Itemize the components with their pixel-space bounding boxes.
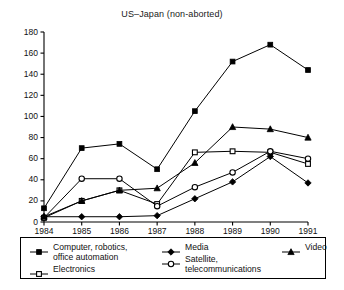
- data-point-marker: [42, 206, 47, 211]
- legend-marker: [161, 255, 181, 265]
- x-tick-label: 1988: [175, 227, 215, 236]
- y-tick-label: 0: [12, 218, 38, 226]
- x-tick-label: 1989: [213, 227, 253, 236]
- series-line: [44, 157, 308, 217]
- data-point-marker: [229, 179, 235, 185]
- y-tick-label: 80: [12, 133, 38, 141]
- data-point-marker: [230, 170, 235, 175]
- series-line: [44, 151, 308, 218]
- y-tick-label: 20: [12, 196, 38, 204]
- y-tick-label: 40: [12, 175, 38, 183]
- data-point-marker: [154, 203, 159, 208]
- data-point-marker: [230, 149, 235, 154]
- data-point-marker: [268, 42, 273, 47]
- legend-label: Media: [185, 242, 277, 252]
- series-line: [44, 151, 308, 218]
- data-point-marker: [305, 180, 311, 186]
- legend-item[interactable]: Electronics: [29, 264, 157, 275]
- legend-column-3: Video: [281, 242, 341, 254]
- data-point-marker: [192, 150, 197, 155]
- x-tick-label: 1987: [137, 227, 177, 236]
- data-point-marker: [155, 167, 160, 172]
- legend-label: Satellite,telecommunications: [185, 254, 277, 275]
- x-tick-label: 1990: [250, 227, 290, 236]
- x-tick-label: 1986: [99, 227, 139, 236]
- legend-item[interactable]: Media: [161, 242, 277, 253]
- x-tick-label: 1985: [62, 227, 102, 236]
- data-point-marker: [79, 214, 85, 220]
- filled-square-icon: [29, 247, 49, 257]
- data-point-marker: [117, 141, 122, 146]
- y-tick-label: 140: [12, 70, 38, 78]
- data-point-marker: [79, 176, 84, 181]
- chart-container: US–Japan (non-aborted) Computer, robotic…: [0, 0, 344, 290]
- data-point-marker: [306, 68, 311, 73]
- data-point-marker: [305, 156, 310, 161]
- series-line: [44, 45, 308, 209]
- data-point-marker: [192, 109, 197, 114]
- filled-triangle-icon: [281, 247, 301, 257]
- legend-item[interactable]: Computer, robotics,office automation: [29, 242, 157, 263]
- data-point-marker: [192, 184, 197, 189]
- legend-marker: [161, 243, 181, 253]
- legend-label: Electronics: [53, 264, 157, 274]
- chart-legend: Computer, robotics,office automationElec…: [20, 237, 326, 279]
- legend-item[interactable]: Video: [281, 242, 341, 253]
- legend-label-line2: telecommunications: [185, 264, 277, 274]
- data-point-marker: [116, 214, 122, 220]
- data-point-marker: [306, 162, 311, 167]
- data-point-marker: [154, 212, 160, 218]
- data-point-marker: [79, 146, 84, 151]
- series-media: [41, 153, 311, 220]
- legend-label: Computer, robotics,office automation: [53, 242, 157, 263]
- data-point-marker: [37, 271, 42, 276]
- x-tick-label: 1984: [24, 227, 64, 236]
- open-circle-icon: [161, 259, 181, 269]
- y-tick-label: 100: [12, 112, 38, 120]
- data-point-marker: [37, 250, 42, 255]
- y-tick-label: 120: [12, 91, 38, 99]
- legend-column-1: Computer, robotics,office automationElec…: [29, 242, 157, 276]
- y-tick-label: 180: [12, 28, 38, 36]
- data-point-marker: [268, 149, 273, 154]
- series-video: [41, 124, 311, 220]
- y-tick-label: 60: [12, 154, 38, 162]
- x-tick-label: 1991: [288, 227, 328, 236]
- data-point-marker: [192, 196, 198, 202]
- data-point-marker: [117, 176, 122, 181]
- legend-marker: [29, 265, 49, 275]
- y-tick-label: 160: [12, 49, 38, 57]
- legend-item[interactable]: Satellite,telecommunications: [161, 254, 277, 275]
- legend-marker: [29, 243, 49, 253]
- legend-column-2: MediaSatellite,telecommunications: [161, 242, 277, 276]
- data-point-marker: [230, 59, 235, 64]
- open-square-icon: [29, 269, 49, 279]
- legend-marker: [281, 243, 301, 253]
- legend-label: Video: [305, 242, 341, 252]
- legend-label-line2: office automation: [53, 252, 157, 262]
- data-point-marker: [168, 261, 173, 266]
